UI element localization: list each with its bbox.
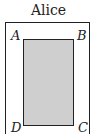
vertex-label-d: D [11,120,21,134]
diagram-title: Alice [0,2,97,18]
shaded-rectangle [23,39,74,126]
vertex-label-c: C [78,120,88,134]
vertex-label-b: B [77,28,87,43]
vertex-label-a: A [11,28,20,43]
